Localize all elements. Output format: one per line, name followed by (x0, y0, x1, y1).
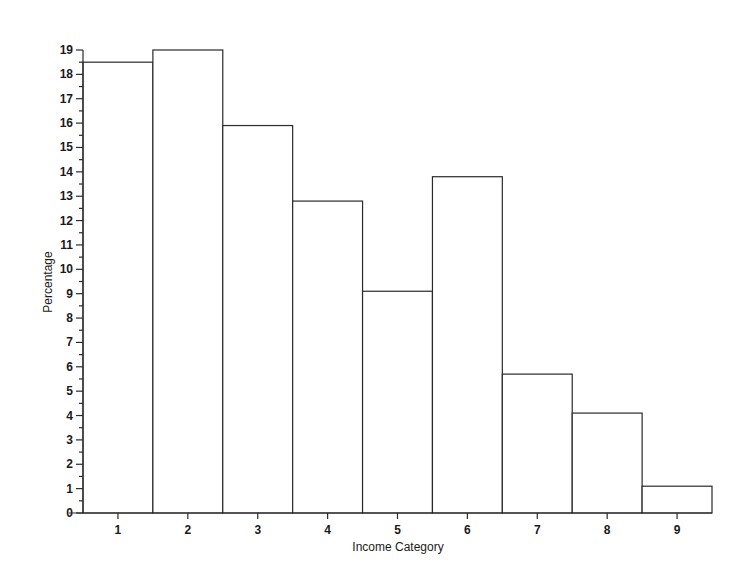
y-tick-label: 11 (60, 238, 73, 252)
bar-3 (223, 126, 293, 513)
y-tick-label: 9 (66, 287, 73, 301)
x-tick-label: 7 (534, 523, 541, 537)
bar-9 (642, 486, 712, 513)
bar-8 (572, 413, 642, 513)
x-tick-label: 3 (254, 523, 261, 537)
y-tick-label: 7 (66, 335, 73, 349)
y-tick-label: 8 (66, 311, 73, 325)
bar-2 (153, 50, 223, 513)
y-tick-label: 1 (66, 482, 73, 496)
y-tick-label: 4 (66, 409, 73, 423)
y-tick-label: 14 (60, 165, 74, 179)
y-tick-label: 10 (60, 262, 74, 276)
y-axis: 012345678910111213141516171819 (60, 43, 83, 520)
x-tick-label: 2 (184, 523, 191, 537)
y-tick-label: 19 (60, 43, 74, 57)
bar-5 (363, 291, 433, 513)
bar-1 (83, 62, 153, 513)
bar-7 (502, 374, 572, 513)
y-tick-label: 5 (66, 384, 73, 398)
y-tick-label: 15 (60, 140, 74, 154)
y-tick-label: 12 (60, 214, 74, 228)
x-tick-label: 8 (604, 523, 611, 537)
y-tick-label: 18 (60, 67, 74, 81)
bars-group (83, 50, 712, 513)
y-tick-label: 3 (66, 433, 73, 447)
x-tick-label: 1 (115, 523, 122, 537)
y-tick-label: 6 (66, 360, 73, 374)
bar-4 (293, 201, 363, 513)
x-tick-label: 4 (324, 523, 331, 537)
x-axis-title: Income Category (352, 540, 443, 554)
x-axis: 123456789 (69, 513, 712, 537)
y-tick-label: 17 (60, 92, 74, 106)
y-tick-label: 16 (60, 116, 74, 130)
x-tick-label: 5 (394, 523, 401, 537)
x-tick-label: 9 (674, 523, 681, 537)
y-axis-title: Percentage (41, 251, 55, 313)
x-tick-label: 6 (464, 523, 471, 537)
bar-6 (432, 177, 502, 513)
y-tick-label: 13 (60, 189, 74, 203)
income-category-histogram: 012345678910111213141516171819 123456789… (0, 0, 750, 571)
y-tick-label: 2 (66, 457, 73, 471)
